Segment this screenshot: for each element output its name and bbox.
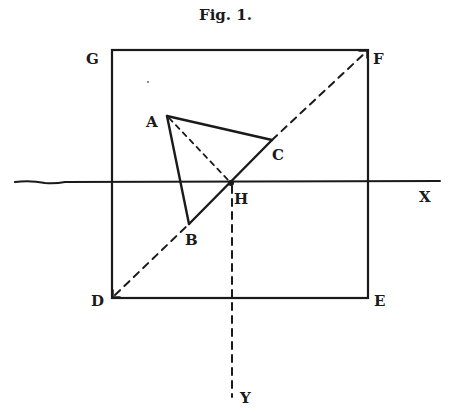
label-g: G xyxy=(86,50,99,68)
diagonal-dashed-upper xyxy=(272,52,366,140)
diagonal-dashed-lower xyxy=(115,224,189,295)
point-h xyxy=(228,180,234,186)
segment-ac xyxy=(167,116,272,140)
label-x: X xyxy=(419,188,431,206)
label-h: H xyxy=(234,190,248,208)
segment-ab xyxy=(167,116,189,224)
geometry-diagram: G F A C H X B D E Y xyxy=(0,0,451,412)
x-axis-line xyxy=(15,181,440,183)
label-y: Y xyxy=(239,389,251,407)
label-e: E xyxy=(374,292,385,310)
label-d: D xyxy=(91,292,104,310)
speck xyxy=(147,81,149,83)
label-c: C xyxy=(272,146,284,164)
label-f: F xyxy=(373,50,384,68)
label-b: B xyxy=(185,231,198,249)
label-a: A xyxy=(145,113,158,131)
